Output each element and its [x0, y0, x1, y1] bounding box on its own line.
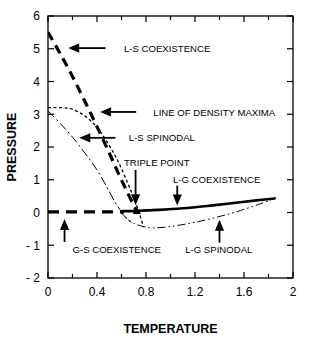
annotation-arrow-l-g-spinodal	[215, 220, 224, 243]
curve-l-s-spinodal	[48, 111, 131, 222]
annotation-label-l-g-coexistence: L-G COEXISTENCE	[173, 174, 260, 185]
y-axis-title: PRESSURE	[5, 113, 19, 182]
x-axis-title: TEMPERATURE	[123, 322, 217, 336]
x-tick-label: 0.8	[138, 285, 155, 299]
annotation-arrow-line-of-density-maxima	[100, 107, 136, 116]
y-tick-label: - 1	[26, 239, 40, 253]
annotations: L-S COEXISTENCELINE OF DENSITY MAXIMAL-S…	[60, 43, 276, 254]
x-tick-label: 1.2	[187, 285, 204, 299]
x-tick-label: 0	[45, 285, 52, 299]
phase-diagram-figure: 00.40.81.21.62- 2- 10123456TEMPERATUREPR…	[0, 0, 312, 341]
annotation-label-triple-point: TRIPLE POINT	[124, 157, 190, 168]
annotation-label-line-of-density-maxima: LINE OF DENSITY MAXIMA	[153, 107, 275, 118]
chart-canvas: 00.40.81.21.62- 2- 10123456TEMPERATUREPR…	[0, 0, 312, 341]
annotation-label-l-g-spinodal: L-G SPINODAL	[185, 244, 253, 255]
annotation-label-g-s-coexistence: G-S COEXISTENCE	[73, 244, 162, 255]
x-tick-label: 0.4	[89, 285, 106, 299]
annotation-arrow-l-s-spinodal	[79, 133, 115, 142]
annotation-arrow-l-g-coexistence	[173, 186, 182, 206]
annotation-label-l-s-spinodal: L-S SPINODAL	[129, 132, 196, 143]
x-tick-labels: 00.40.81.21.62	[45, 285, 297, 299]
annotation-arrow-l-s-coexistence	[68, 43, 105, 52]
curve-l-g-spinodal	[122, 200, 271, 228]
curve-l-s-coexistence	[48, 32, 137, 210]
curve-l-g-coexistence	[122, 198, 275, 211]
annotation-arrow-g-s-coexistence	[60, 219, 69, 242]
y-tick-label: 5	[33, 42, 40, 56]
y-tick-label: 3	[33, 108, 40, 122]
annotation-arrowhead	[60, 219, 69, 230]
annotation-arrowhead	[173, 195, 182, 206]
plot-frame	[48, 16, 293, 278]
y-tick-labels: - 2- 10123456	[26, 9, 40, 285]
axis-ticks	[48, 16, 293, 278]
y-tick-label: - 2	[26, 271, 40, 285]
annotation-arrowhead	[79, 133, 90, 142]
y-tick-label: 2	[33, 140, 40, 154]
annotation-arrowhead	[100, 107, 111, 116]
y-tick-label: 4	[33, 75, 40, 89]
x-tick-label: 1.6	[236, 285, 253, 299]
annotation-arrowhead	[215, 220, 224, 231]
data-curves	[48, 32, 275, 228]
y-tick-label: 6	[33, 9, 40, 23]
annotation-arrowhead	[68, 43, 79, 52]
annotation-label-l-s-coexistence: L-S COEXISTENCE	[124, 43, 210, 54]
y-tick-label: 1	[33, 173, 40, 187]
y-tick-label: 0	[33, 206, 40, 220]
x-tick-label: 2	[290, 285, 297, 299]
